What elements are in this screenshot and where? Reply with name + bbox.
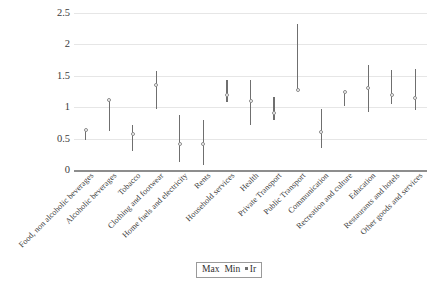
- legend-item-ir: Ir: [245, 264, 256, 275]
- gridline: [74, 76, 427, 77]
- range-bar: [109, 100, 110, 131]
- range-bar: [132, 125, 133, 150]
- range-bar: [179, 115, 180, 162]
- range-bar: [156, 71, 157, 109]
- gridline: [74, 13, 427, 14]
- x-axis-category-labels: Food, non alcoholic beveragesAlcoholic b…: [74, 171, 427, 259]
- chart-container: 00.511.522.5 Food, non alcoholic beverag…: [0, 0, 433, 287]
- range-bar: [297, 24, 298, 90]
- legend-item-max: Max: [202, 264, 219, 275]
- y-tick-label: 2.5: [57, 8, 70, 19]
- ir-marker: [413, 96, 417, 100]
- ir-marker: [84, 128, 88, 132]
- ir-marker: [366, 86, 370, 90]
- ir-marker: [154, 83, 158, 87]
- x-axis-label: Rents: [193, 171, 213, 191]
- ir-marker: [343, 90, 347, 94]
- ir-marker: [249, 99, 253, 103]
- range-bar: [226, 80, 227, 102]
- gridline: [74, 44, 427, 45]
- ir-marker: [390, 93, 394, 97]
- range-bar: [391, 70, 392, 104]
- y-tick-label: 0: [65, 165, 70, 176]
- legend-item-min: Min: [224, 264, 240, 275]
- gridline: [74, 139, 427, 140]
- range-bar: [415, 69, 416, 110]
- legend-label-ir: Ir: [250, 264, 256, 274]
- y-tick-label: 1: [65, 102, 70, 113]
- y-tick-label: 0.5: [57, 134, 70, 145]
- ir-marker: [296, 88, 300, 92]
- legend-label-min: Min: [224, 264, 240, 274]
- legend-label-max: Max: [202, 264, 219, 274]
- ir-marker: [107, 98, 111, 102]
- y-tick-label: 1.5: [57, 71, 70, 82]
- chart-legend: MaxMinIr: [196, 262, 262, 278]
- ir-marker: [201, 142, 205, 146]
- x-axis-label-text: Rents: [193, 171, 213, 191]
- ir-marker: [225, 93, 229, 97]
- plot-area: [74, 13, 427, 170]
- range-bar: [273, 97, 274, 120]
- y-tick-label: 2: [65, 39, 70, 50]
- legend-marker-icon: [245, 267, 248, 270]
- ir-marker: [178, 142, 182, 146]
- range-bar: [321, 109, 322, 148]
- ir-marker: [272, 111, 276, 115]
- ir-marker: [131, 132, 135, 136]
- ir-marker: [319, 130, 323, 134]
